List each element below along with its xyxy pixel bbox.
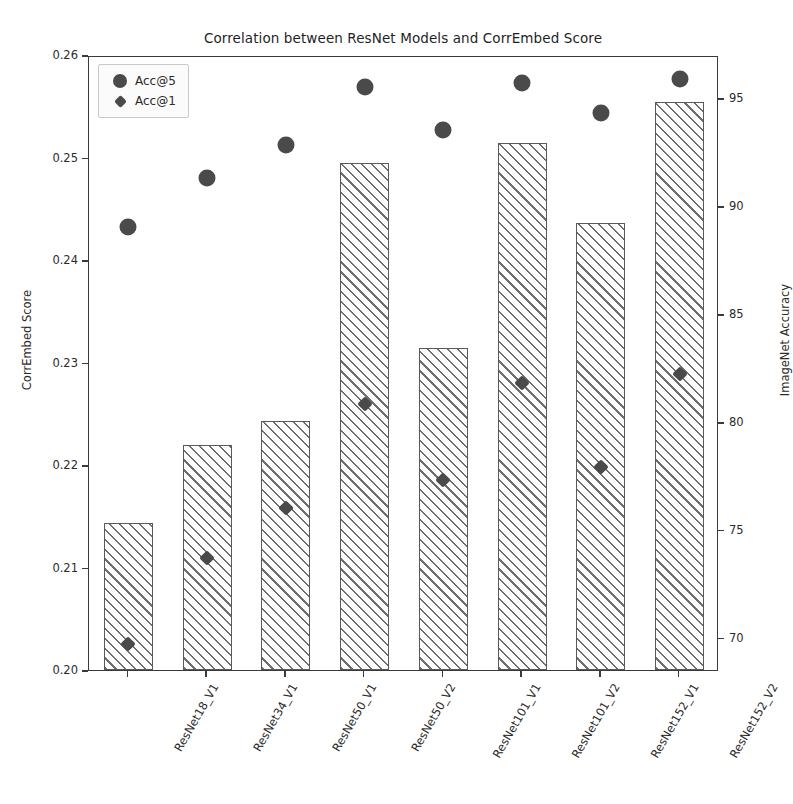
acc5-point-marker [671,70,688,87]
y-tick-label-right: 75 [729,523,789,537]
bar [576,223,625,670]
y-tick-label-left: 0.22 [8,458,78,472]
y-tick-label-right: 95 [729,91,789,105]
x-tick-label: ResNet101_V1 [490,681,544,760]
y-tick-label-left: 0.25 [8,151,78,165]
x-tick-mark [442,671,443,677]
acc5-point-marker [356,79,373,96]
y-tick-label-right: 90 [729,199,789,213]
y-tick-mark-right [718,206,724,207]
chart-figure: Correlation between ResNet Models and Co… [0,0,793,804]
x-tick-mark [520,671,521,677]
acc5-point-marker [199,169,216,186]
x-tick-label: ResNet152_V1 [648,681,702,760]
y-tick-label-right: 85 [729,307,789,321]
acc5-point-marker [277,137,294,154]
y-tick-mark-right [718,638,724,639]
legend-item-acc5: Acc@5 [107,71,176,91]
bar [655,102,704,670]
y-tick-label-right: 80 [729,415,789,429]
x-tick-mark [599,671,600,677]
plot-inner [89,57,717,670]
acc5-point-marker [514,74,531,91]
y-tick-label-left: 0.23 [8,356,78,370]
y-tick-mark-right [718,314,724,315]
legend-label-acc1: Acc@1 [135,94,176,108]
x-tick-mark [284,671,285,677]
legend-item-acc1: Acc@1 [107,91,176,111]
bar [498,143,547,670]
y-tick-label-left: 0.26 [8,48,78,62]
chart-title: Correlation between ResNet Models and Co… [88,30,718,46]
circle-marker-icon [107,74,133,88]
y-tick-mark-right [718,98,724,99]
bar [419,348,468,670]
y-tick-mark-right [718,530,724,531]
chart-legend: Acc@5 Acc@1 [98,64,189,118]
x-tick-mark [678,671,679,677]
bar [261,421,310,670]
y-tick-label-right: 70 [729,631,789,645]
y-tick-label-left: 0.24 [8,253,78,267]
y-axis-label-right: ImageNet Accuracy [778,270,792,410]
x-tick-mark [363,671,364,677]
bar [340,163,389,670]
x-tick-label: ResNet101_V2 [569,681,623,760]
x-tick-label: ResNet34_V1 [250,681,300,754]
y-tick-mark-right [718,422,724,423]
x-tick-mark [205,671,206,677]
legend-label-acc5: Acc@5 [135,74,176,88]
plot-area [88,56,718,671]
acc5-point-marker [120,219,137,236]
y-tick-label-left: 0.20 [8,663,78,677]
diamond-marker-icon [107,97,133,106]
acc5-point-marker [592,105,609,122]
y-tick-label-left: 0.21 [8,561,78,575]
x-tick-label: ResNet18_V1 [172,681,222,754]
y-axis-label-left: CorrEmbed Score [20,280,34,400]
x-tick-label: ResNet50_V1 [329,681,379,754]
x-tick-label: ResNet152_V2 [726,681,780,760]
x-tick-mark [127,671,128,677]
acc5-point-marker [435,122,452,139]
x-tick-label: ResNet50_V2 [408,681,458,754]
